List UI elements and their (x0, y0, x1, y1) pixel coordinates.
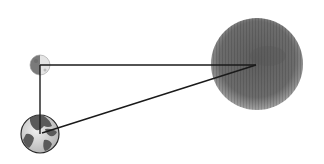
connecting-lines (40, 65, 256, 134)
sun (211, 18, 303, 110)
earth-sun-line (42, 65, 256, 133)
diagram-canvas (0, 0, 324, 164)
